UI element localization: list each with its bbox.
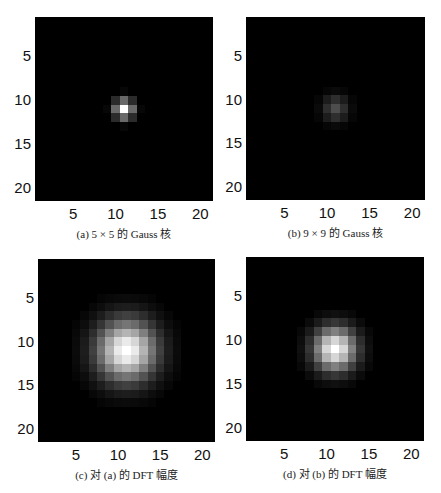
y-tick-label: 5: [8, 290, 34, 305]
x-tick-label: 5: [269, 446, 299, 461]
x-tick-label: 5: [269, 205, 299, 220]
subfigure-caption-a: (a) 5 × 5 的 Gauss 核: [35, 225, 213, 241]
subfigure-caption-d: (d) 对 (b) 的 DFT 幅度: [246, 465, 424, 481]
y-tick-label: 15: [8, 377, 34, 392]
y-tick-label: 20: [8, 421, 34, 436]
x-tick-label: 15: [355, 205, 385, 220]
heatmap-image-a: [35, 17, 213, 201]
y-tick-label: 5: [216, 48, 242, 63]
x-tick-label: 15: [143, 206, 173, 221]
x-tick-label: 15: [354, 446, 384, 461]
y-tick-label: 10: [5, 92, 31, 107]
y-tick-label: 10: [8, 334, 34, 349]
x-tick-label: 20: [185, 206, 215, 221]
y-tick-label: 10: [216, 92, 242, 107]
x-tick-label: 10: [312, 205, 342, 220]
x-tick-label: 20: [397, 205, 427, 220]
y-tick-label: 20: [216, 420, 242, 435]
y-tick-label: 20: [5, 180, 31, 195]
x-tick-label: 15: [145, 447, 175, 462]
y-tick-label: 15: [5, 136, 31, 151]
subfigure-caption-c: (c) 对 (a) 的 DFT 幅度: [38, 466, 215, 482]
y-tick-label: 10: [216, 332, 242, 347]
x-tick-label: 10: [312, 446, 342, 461]
heatmap-image-c: [38, 259, 215, 442]
y-tick-label: 20: [216, 179, 242, 194]
x-tick-label: 10: [101, 206, 131, 221]
heatmap-image-b: [246, 17, 425, 200]
x-tick-label: 5: [58, 206, 88, 221]
x-tick-label: 20: [396, 446, 426, 461]
subfigure-caption-b: (b) 9 × 9 的 Gauss 核: [246, 224, 425, 240]
y-tick-label: 15: [216, 135, 242, 150]
x-tick-label: 5: [61, 447, 91, 462]
x-tick-label: 20: [187, 447, 217, 462]
y-tick-label: 5: [5, 48, 31, 63]
x-tick-label: 10: [103, 447, 133, 462]
heatmap-image-d: [246, 257, 424, 441]
y-tick-label: 5: [216, 288, 242, 303]
y-tick-label: 15: [216, 376, 242, 391]
